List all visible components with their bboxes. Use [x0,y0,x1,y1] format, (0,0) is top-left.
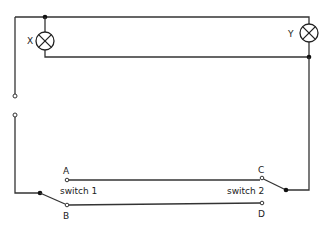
terminal-d-label: D [258,209,265,219]
circuit-diagram: X Y A B switch 1 C D switch 2 [0,0,327,227]
supply-terminal-lower [13,113,17,117]
terminal-a [65,178,69,182]
switch-1-label: switch 1 [60,186,97,196]
terminal-d [260,201,264,205]
switch-2-label: switch 2 [227,186,264,196]
terminal-c-label: C [258,165,264,175]
lamp-y-label: Y [287,29,294,39]
terminal-b [65,203,69,207]
middle-wire [45,50,309,57]
terminal-b-label: B [63,211,69,221]
lamp-x-icon [36,32,54,50]
supply-terminal-upper [13,94,17,98]
traveller-wire-b-d [69,203,260,205]
right-wire [286,57,309,190]
top-wire [15,17,309,24]
terminal-c [260,176,264,180]
switch-2-pivot [284,188,289,193]
terminal-a-label: A [63,166,70,176]
lamp-x-label: X [27,36,33,46]
switch-2-blade [264,179,287,190]
left-wire-lower [15,117,40,193]
lamp-y-icon [300,24,318,42]
switch-2 [260,176,288,205]
